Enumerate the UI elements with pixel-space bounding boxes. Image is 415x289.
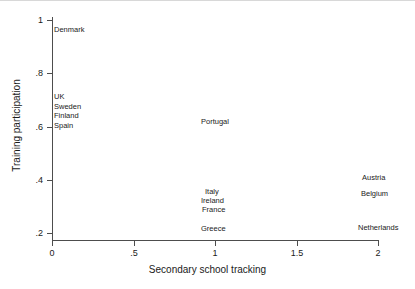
point-label-denmark: Denmark bbox=[54, 26, 84, 34]
point-label-france: France bbox=[202, 206, 225, 214]
point-label-greece: Greece bbox=[201, 225, 226, 233]
y-ticklabel-1: 1 bbox=[3, 15, 43, 25]
point-label-spain: Spain bbox=[54, 122, 73, 130]
scatter-plot-figure: 1 .8 .6 .4 .2 0 .5 1 1.5 2 Secondary sch… bbox=[0, 0, 415, 289]
y-axis-line bbox=[52, 17, 53, 241]
y-ticklabel-08: .8 bbox=[3, 68, 43, 78]
x-ticklabel-15: 1.5 bbox=[277, 248, 317, 258]
point-label-finland: Finland bbox=[54, 112, 79, 120]
top-rule bbox=[0, 0, 415, 1]
y-axis-title: Training participation bbox=[11, 66, 22, 186]
point-label-austria: Austria bbox=[362, 174, 385, 182]
point-label-sweden: Sweden bbox=[54, 103, 81, 111]
y-tick-08 bbox=[47, 73, 52, 74]
x-axis-title: Secondary school tracking bbox=[0, 264, 415, 275]
y-tick-06 bbox=[47, 127, 52, 128]
y-ticklabel-02: .2 bbox=[3, 228, 43, 238]
point-label-portugal: Portugal bbox=[201, 118, 229, 126]
y-tick-1 bbox=[47, 20, 52, 21]
point-label-italy: Italy bbox=[205, 188, 219, 196]
x-ticklabel-0: 0 bbox=[32, 248, 72, 258]
x-tick-15 bbox=[297, 241, 298, 246]
plot-area: DenmarkUKSwedenFinlandSpainPortugalItaly… bbox=[0, 0, 415, 289]
point-label-belgium: Belgium bbox=[361, 190, 388, 198]
x-tick-2 bbox=[378, 241, 379, 246]
x-ticklabel-1: 1 bbox=[195, 248, 235, 258]
x-tick-1 bbox=[215, 241, 216, 246]
x-ticklabel-2: 2 bbox=[358, 248, 398, 258]
y-ticklabel-04: .4 bbox=[3, 175, 43, 185]
point-label-uk: UK bbox=[54, 93, 64, 101]
y-ticklabel-06: .6 bbox=[3, 122, 43, 132]
x-ticklabel-05: .5 bbox=[114, 248, 154, 258]
y-tick-04 bbox=[47, 180, 52, 181]
point-label-ireland: Ireland bbox=[201, 197, 224, 205]
x-tick-0 bbox=[52, 241, 53, 246]
x-tick-05 bbox=[134, 241, 135, 246]
y-tick-02 bbox=[47, 233, 52, 234]
point-label-netherlands: Netherlands bbox=[358, 224, 398, 232]
